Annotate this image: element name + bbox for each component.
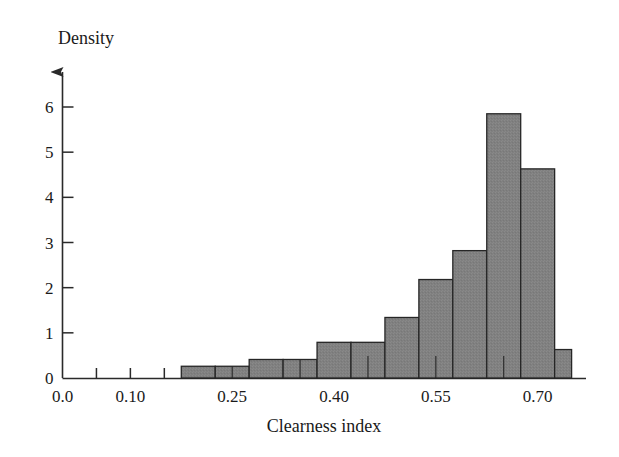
y-tick-label: 3 bbox=[45, 234, 54, 253]
y-tick-label: 0 bbox=[45, 369, 54, 388]
y-tick-label: 2 bbox=[45, 279, 54, 298]
histogram-figure: Density 0123456 0.00.100.250.400.550.70 … bbox=[0, 0, 619, 457]
x-tick-label: 0.25 bbox=[217, 387, 247, 406]
y-axis-title: Density bbox=[58, 28, 114, 48]
x-tick-label: 0.55 bbox=[421, 387, 451, 406]
clearness-index-histogram: Density 0123456 0.00.100.250.400.550.70 … bbox=[0, 0, 619, 457]
histogram-bar bbox=[521, 169, 555, 378]
y-tick-label: 6 bbox=[45, 98, 54, 117]
histogram-bar bbox=[317, 342, 351, 378]
x-axis-title: Clearness index bbox=[267, 416, 381, 436]
x-tick-label: 0.0 bbox=[52, 387, 73, 406]
histogram-bar bbox=[487, 114, 521, 378]
histogram-bar bbox=[181, 366, 215, 378]
histogram-bar bbox=[249, 359, 283, 378]
x-tick-label: 0.70 bbox=[523, 387, 553, 406]
y-tick-label: 1 bbox=[45, 324, 54, 343]
histogram-bar bbox=[555, 350, 572, 378]
y-tick-label: 5 bbox=[45, 143, 54, 162]
histogram-bar bbox=[385, 317, 419, 378]
histogram-bar bbox=[453, 251, 487, 378]
y-tick-label: 4 bbox=[45, 188, 54, 207]
x-tick-label: 0.10 bbox=[116, 387, 146, 406]
x-tick-label: 0.40 bbox=[319, 387, 349, 406]
